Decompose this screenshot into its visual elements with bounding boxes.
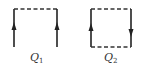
figure-q1: Q1: [12, 9, 60, 65]
q1-label: Q1: [30, 51, 44, 65]
q2-label: Q2: [104, 51, 118, 65]
q2-right-arrow-down-icon: [129, 29, 134, 37]
q2-left-arrow-up-icon: [89, 23, 94, 31]
figure-q2: Q2: [89, 9, 134, 65]
q1-right-arrow-up-icon: [55, 22, 60, 30]
q1-left-arrow-up-icon: [12, 22, 17, 30]
diagram-canvas: Q1 Q2: [0, 0, 143, 68]
